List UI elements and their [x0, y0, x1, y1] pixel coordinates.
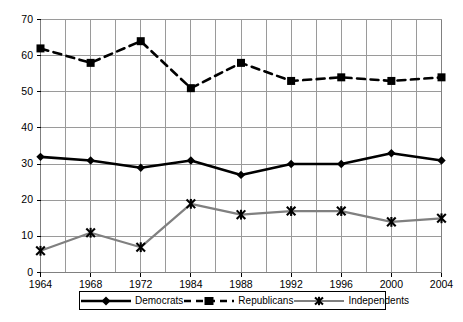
y-tick-0: 0 — [5, 266, 33, 278]
x-tick-2004: 2004 — [420, 278, 463, 290]
legend-swatch-independents — [293, 295, 345, 307]
y-tick-40: 40 — [5, 121, 33, 133]
legend-label-independents: Independents — [348, 295, 409, 306]
legend-label-democrats: Democrats — [135, 295, 183, 306]
y-tick-20: 20 — [5, 193, 33, 205]
x-tick-1964: 1964 — [19, 278, 63, 290]
chart-legend: Democrats Republicans Independents — [79, 291, 386, 310]
x-tick-1968: 1968 — [69, 278, 113, 290]
x-tick-1996: 1996 — [319, 278, 363, 290]
legend-label-republicans: Republicans — [238, 295, 293, 306]
legend-item-independents: Independents — [293, 295, 409, 307]
legend-item-democrats: Democrats — [80, 295, 183, 307]
x-tick-1992: 1992 — [269, 278, 313, 290]
legend-item-republicans: Republicans — [183, 295, 293, 307]
y-tick-60: 60 — [5, 49, 33, 61]
x-tick-1988: 1988 — [219, 278, 263, 290]
x-tick-1972: 1972 — [119, 278, 163, 290]
y-tick-70: 70 — [5, 13, 33, 25]
y-tick-30: 30 — [5, 157, 33, 169]
y-tick-10: 10 — [5, 229, 33, 241]
y-tick-50: 50 — [5, 85, 33, 97]
line-chart: 706050403020100 196419681972198419881992… — [0, 0, 463, 322]
plot-area — [0, 0, 463, 322]
x-tick-1984: 1984 — [169, 278, 213, 290]
legend-swatch-democrats — [80, 295, 132, 307]
x-tick-2000: 2000 — [369, 278, 413, 290]
grid-lines — [37, 20, 442, 277]
legend-swatch-republicans — [183, 295, 235, 307]
